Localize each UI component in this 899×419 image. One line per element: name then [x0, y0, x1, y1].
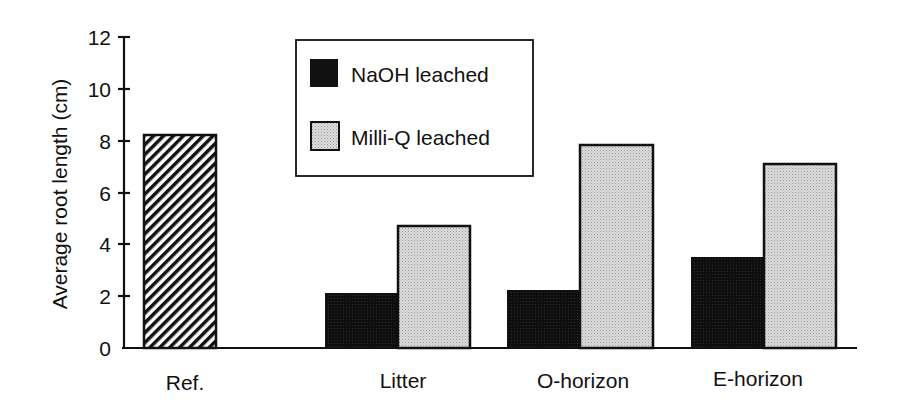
x-axis-category-labels: Ref. Litter O-horizon E-horizon: [166, 367, 803, 394]
y-tick-8: 8: [99, 130, 111, 153]
legend: NaOH leached Milli-Q leached: [296, 40, 533, 176]
y-tick-12: 12: [88, 26, 111, 49]
bar-o-horizon-naoh: [508, 291, 582, 348]
y-tick-4: 4: [99, 233, 111, 256]
bar-e-horizon-naoh: [692, 258, 766, 348]
bar-litter-naoh: [326, 294, 400, 348]
legend-swatch-naoh: [310, 59, 338, 87]
y-tick-0: 0: [99, 337, 111, 360]
legend-swatch-milliq: [311, 122, 339, 150]
bar-e-horizon-milliq: [764, 164, 836, 348]
y-tick-2: 2: [99, 285, 111, 308]
y-axis-title: Average root length (cm): [48, 79, 71, 310]
bar-chart: Average root length (cm) 0 2 4 6 8 10 12: [0, 0, 899, 419]
category-litter: Litter: [380, 369, 427, 392]
category-e-horizon: E-horizon: [713, 367, 803, 390]
bar-o-horizon-milliq: [580, 145, 653, 348]
y-axis-tick-labels: 0 2 4 6 8 10 12: [88, 26, 112, 360]
category-ref: Ref.: [166, 371, 205, 394]
legend-label-milliq: Milli-Q leached: [351, 126, 490, 149]
y-tick-6: 6: [99, 182, 111, 205]
category-o-horizon: O-horizon: [537, 369, 629, 392]
bar-ref: [144, 135, 216, 348]
legend-label-naoh: NaOH leached: [351, 63, 489, 86]
bar-litter-milliq: [398, 226, 470, 348]
y-tick-10: 10: [88, 78, 111, 101]
